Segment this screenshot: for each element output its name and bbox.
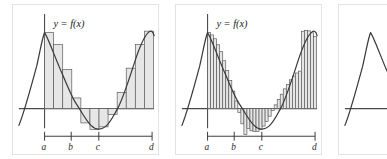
interval-ruler	[45, 132, 153, 141]
function-curve	[345, 33, 387, 126]
panel-3-plot	[339, 5, 387, 154]
riemann-rectangles-coarse	[45, 31, 154, 129]
figure-panel-1: y = f(x) a b c d	[12, 4, 159, 155]
riemann-rectangles-fine	[208, 30, 317, 134]
panel-2-plot: y = f(x) a b c d	[176, 5, 321, 154]
tick-label-d: d	[312, 142, 317, 152]
tick-label-c: c	[259, 142, 264, 152]
figure-panel-2: y = f(x) a b c d	[175, 4, 322, 155]
function-label: y = f(x)	[215, 18, 248, 30]
tick-label-d: d	[149, 142, 154, 152]
tick-label-b: b	[231, 142, 236, 152]
tick-label-a: a	[42, 142, 47, 152]
function-label: y = f(x)	[52, 18, 85, 30]
panel-1-plot: y = f(x) a b c d	[13, 5, 158, 154]
interval-ruler	[208, 132, 316, 141]
tick-label-a: a	[205, 142, 210, 152]
riemann-sum-figure-strip: y = f(x) a b c d	[0, 0, 387, 159]
tick-label-b: b	[68, 142, 73, 152]
tick-label-c: c	[96, 142, 101, 152]
figure-panel-3	[338, 4, 387, 155]
